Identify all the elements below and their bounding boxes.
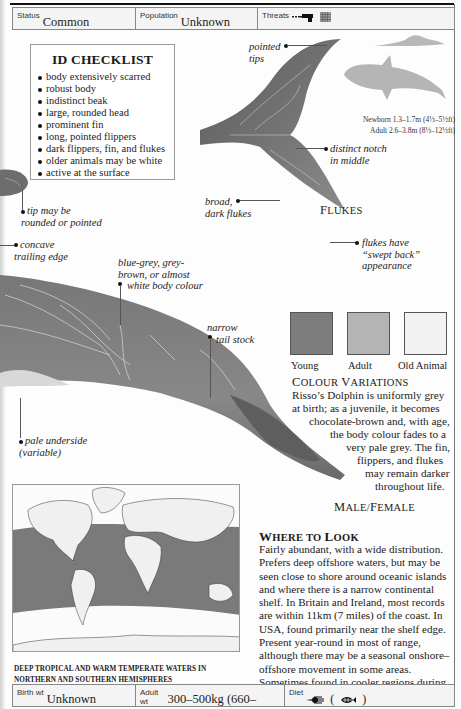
fishing-net-icon [320, 12, 331, 22]
annotation-dot [324, 147, 328, 151]
checklist-title: ID CHECKLIST [37, 52, 174, 68]
colour-text-line: flippers, and flukes [357, 454, 443, 467]
top-info-bar: Status Common Population Unknown Threats [12, 7, 455, 30]
leader-line [20, 398, 21, 438]
flipper-illustration [0, 168, 32, 200]
world-map-graphic [13, 485, 240, 652]
colour-text-line: Risso’s Dolphin is uniformly grey [292, 389, 444, 402]
checklist-item: dark flippers, fin, and flukes [37, 143, 174, 155]
annotation-pale-underside: pale underside (variable) [19, 435, 87, 458]
colour-text-line: may remain darker [365, 467, 450, 480]
leader-line [330, 242, 356, 243]
birth-weight-label: Birth wt [17, 687, 44, 697]
swatch-old-animal [404, 312, 447, 355]
adult-weight-cell: Adult wt 300–500kg (660–1,100lb) [136, 685, 285, 706]
colour-text-line: throughout life. [375, 480, 445, 493]
birth-weight-value: Unknown [47, 687, 96, 707]
colour-text-line: the body colour fades to a [330, 428, 446, 441]
colour-text-line: chocolate-brown and, with age, [309, 415, 450, 428]
diet-label: Diet [289, 687, 303, 697]
annotation-distinct-notch: distinct notch in middle [330, 143, 387, 166]
fish-icon [340, 695, 356, 705]
diet-cell: Diet ( ) [285, 685, 454, 706]
population-label: Population [140, 10, 178, 20]
colour-text-line: very pale grey. The fin, [346, 441, 450, 454]
harpoon-gun-icon [292, 13, 314, 22]
checklist-item: active at the surface [37, 167, 174, 179]
leader-line [120, 285, 121, 325]
leader-line [0, 245, 14, 246]
dolphin-scale-silhouette [342, 55, 447, 105]
bottom-info-bar: Birth wt Unknown Adult wt 300–500kg (660… [12, 684, 455, 707]
checklist-item: indistinct beak [37, 95, 174, 107]
annotation-concave-edge: concave trailing edge [14, 239, 68, 262]
checklist-item: robust body [37, 83, 174, 95]
swatch-label-adult: Adult [348, 360, 372, 371]
swatch-label-young: Young [291, 360, 319, 371]
leader-line [210, 338, 211, 398]
squid-icon [306, 696, 324, 704]
threats-label: Threats [262, 10, 289, 20]
checklist-item: body extensively scarred [37, 71, 174, 83]
leader-line [240, 200, 280, 201]
annotation-swept-back: flukes have “swept back” appearance [362, 237, 420, 272]
leader-line [287, 45, 327, 46]
colour-variations-title: COLOUR VARIATIONS [292, 375, 409, 390]
status-value: Common [43, 10, 90, 30]
flukes-caption: FLUKES [320, 203, 363, 218]
annotation-body-colour: blue-grey, grey- brown, or almost white … [118, 257, 203, 292]
field-guide-page: Status Common Population Unknown Threats [0, 0, 461, 709]
annotation-tail-stock: narrow tail stock [207, 322, 254, 345]
swimmer-scale-silhouette [375, 32, 445, 50]
population-cell: Population Unknown [136, 8, 258, 29]
id-checklist: ID CHECKLIST body extensively scarred ro… [30, 44, 175, 180]
birth-weight-cell: Birth wt Unknown [13, 685, 136, 706]
checklist-item: prominent fin [37, 119, 174, 131]
adult-weight-value: 300–500kg (660–1,100lb) [168, 687, 280, 709]
checklist-item: large, rounded head [37, 107, 174, 119]
swatch-label-old-animal: Old Animal [398, 360, 447, 371]
checklist-item: long, pointed flippers [37, 131, 174, 143]
distribution-map [12, 484, 240, 652]
adult-weight-label: Adult wt [140, 687, 165, 706]
newborn-size: Newborn 1.3–1.7m (4½–5½ft) [355, 114, 455, 125]
where-to-look-text: Fairly abundant, with a wide distributio… [259, 543, 455, 703]
checklist-items: body extensively scarred robust body ind… [37, 71, 174, 179]
colour-text-line: at birth; as a juvenile, it becomes [292, 402, 440, 415]
leader-line [296, 148, 324, 149]
swatch-young [290, 312, 333, 355]
swatch-adult [347, 312, 390, 355]
annotation-tip-rounded: tip may be rounded or pointed [21, 205, 102, 228]
threats-cell: Threats [258, 8, 454, 29]
top-rule [10, 3, 454, 5]
annotation-dot [355, 241, 359, 245]
checklist-item: older animals may be white [37, 155, 174, 167]
size-info: Newborn 1.3–1.7m (4½–5½ft) Adult 2.6–3.8… [355, 114, 455, 136]
population-value: Unknown [181, 10, 230, 30]
annotation-pointed-tips: pointed tips [249, 41, 281, 64]
map-caption: DEEP TROPICAL AND WARM TEMPERATE WATERS … [14, 664, 244, 686]
adult-size: Adult 2.6–3.8m (8½–12½ft) [355, 125, 455, 136]
male-female-caption: MALE/FEMALE [334, 500, 415, 515]
status-label: Status [17, 10, 40, 20]
colour-swatches [290, 312, 447, 355]
status-cell: Status Common [13, 8, 136, 29]
